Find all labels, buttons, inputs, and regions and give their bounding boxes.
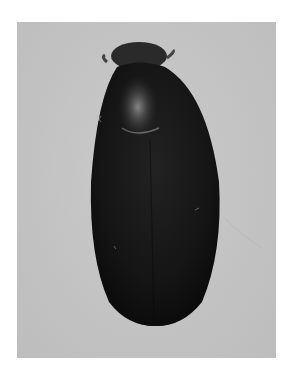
beetle-illustration xyxy=(17,22,276,358)
right-antenna xyxy=(167,50,173,58)
stray-fiber xyxy=(225,218,262,248)
left-antenna xyxy=(103,55,107,62)
specimen-photo: Dark glossy oval beetle photographed fro… xyxy=(17,22,276,358)
